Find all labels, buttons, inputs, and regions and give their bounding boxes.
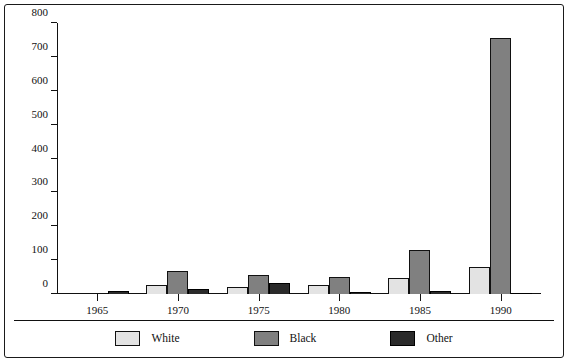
- legend-swatch-white: [115, 331, 140, 346]
- bar-group: [57, 23, 138, 294]
- legend-item-other: Other: [390, 331, 452, 346]
- legend-label-other: Other: [426, 333, 452, 345]
- y-axis-label: 0: [43, 278, 49, 289]
- bar-other-1990: [511, 293, 532, 294]
- legend-swatch-black: [254, 331, 279, 346]
- bar-other-1965: [108, 291, 129, 294]
- x-axis-label-1990: 1990: [490, 305, 512, 316]
- legend-item-black: Black: [254, 331, 317, 346]
- x-axis-label-1985: 1985: [409, 305, 431, 316]
- bar-black-1975: [248, 275, 269, 294]
- bar-black-1985: [409, 250, 430, 294]
- y-axis-label: 800: [32, 7, 49, 18]
- bar-group: [380, 23, 461, 294]
- bar-group: [138, 23, 219, 294]
- bar-white-1975: [227, 287, 248, 294]
- x-axis-tick: [339, 294, 340, 301]
- legend-label-black: Black: [290, 333, 317, 345]
- bar-white-1985: [388, 278, 409, 294]
- y-axis-label: 400: [32, 142, 49, 153]
- x-axis-tick: [97, 294, 98, 301]
- y-axis-label: 200: [32, 210, 49, 221]
- plot-area: 0100200300400500600700800 19651970197519…: [57, 23, 541, 294]
- chart-legend: WhiteBlackOther: [5, 331, 563, 346]
- x-axis-tick: [259, 294, 260, 301]
- x-axis-tick: [420, 294, 421, 301]
- x-axis-label-1980: 1980: [328, 305, 350, 316]
- bar-other-1980: [350, 292, 371, 294]
- bar-white-1965: [66, 293, 87, 294]
- bar-white-1980: [308, 285, 329, 294]
- bar-black-1980: [329, 277, 350, 294]
- bar-black-1990: [490, 38, 511, 294]
- chart-figure: 0100200300400500600700800 19651970197519…: [4, 4, 564, 358]
- y-axis-label: 300: [32, 176, 49, 187]
- legend-item-white: White: [115, 331, 179, 346]
- bar-black-1970: [167, 271, 188, 294]
- y-axis-label: 100: [32, 244, 49, 255]
- x-axis-label-1975: 1975: [248, 305, 270, 316]
- x-axis-label-1965: 1965: [86, 305, 108, 316]
- legend-swatch-other: [390, 331, 415, 346]
- bar-group: [299, 23, 380, 294]
- bar-white-1970: [146, 285, 167, 294]
- bar-white-1990: [469, 267, 490, 294]
- bar-group: [460, 23, 541, 294]
- legend-label-white: White: [151, 333, 179, 345]
- y-axis-label: 600: [32, 74, 49, 85]
- bar-other-1975: [269, 283, 290, 294]
- bar-other-1985: [430, 291, 451, 294]
- bar-other-1970: [188, 289, 209, 294]
- legend-divider: [14, 320, 554, 321]
- bar-series-container: [57, 23, 541, 294]
- bar-group: [218, 23, 299, 294]
- y-axis-label: 700: [32, 40, 49, 51]
- x-axis-tick: [178, 294, 179, 301]
- x-axis-tick: [501, 294, 502, 301]
- x-axis-label-1970: 1970: [167, 305, 189, 316]
- y-axis-label: 500: [32, 108, 49, 119]
